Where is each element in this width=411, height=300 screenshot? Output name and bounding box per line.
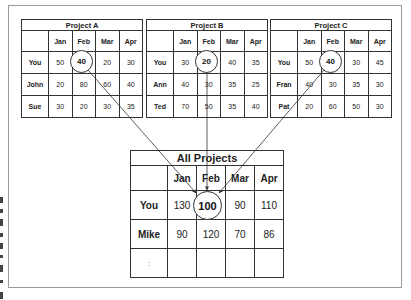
cell: 40: [119, 74, 143, 96]
table-row: John 20 80 60 40: [22, 74, 143, 96]
row-label: You: [22, 52, 49, 74]
cropped-margin-text: [0, 195, 4, 300]
cell: [226, 249, 255, 278]
col-header-feb: Feb: [197, 166, 226, 191]
row-label: Sue: [22, 96, 49, 118]
col-header-jan: Jan: [168, 166, 197, 191]
highlight-circle-a: 40: [70, 50, 93, 73]
cell: 45: [368, 52, 392, 74]
cell: 30: [321, 74, 345, 96]
cell: 30: [174, 52, 198, 74]
cell: 35: [244, 52, 268, 74]
cell: 86: [255, 220, 284, 249]
row-label: Ted: [147, 96, 174, 118]
table-row: :: [131, 249, 284, 278]
cell: 90: [226, 191, 255, 220]
col-header-jan: Jan: [174, 31, 198, 52]
row-label: Mike: [131, 220, 168, 249]
corner-cell: [22, 31, 49, 52]
cell: 60: [321, 96, 345, 118]
col-header-apr: Apr: [255, 166, 284, 191]
col-header-mar: Mar: [345, 31, 369, 52]
col-header-apr: Apr: [119, 31, 143, 52]
row-label: Fran: [271, 74, 298, 96]
cell: 25: [244, 74, 268, 96]
row-label: You: [271, 52, 298, 74]
col-header-feb: Feb: [72, 31, 96, 52]
cell: 40: [221, 52, 245, 74]
table-row: Mike 90 120 70 86: [131, 220, 284, 249]
col-header-feb: Feb: [321, 31, 345, 52]
col-header-mar: Mar: [221, 31, 245, 52]
highlight-circle-b: 20: [195, 50, 218, 73]
corner-cell: [147, 31, 174, 52]
table-title: Project A: [22, 20, 143, 31]
cell: 20: [298, 96, 322, 118]
table-row: Ted 70 50 35 40: [147, 96, 268, 118]
cell: 35: [345, 74, 369, 96]
cell: 20: [96, 52, 120, 74]
cell: 30: [368, 96, 392, 118]
cell: 50: [298, 52, 322, 74]
cell: 50: [197, 96, 221, 118]
table-row: Pat 20 60 50 30: [271, 96, 392, 118]
cell: 30: [96, 96, 120, 118]
col-header-feb: Feb: [197, 31, 221, 52]
corner-cell: [131, 166, 168, 191]
col-header-mar: Mar: [226, 166, 255, 191]
table-row: Sue 30 20 30 35: [22, 96, 143, 118]
cell: 120: [197, 220, 226, 249]
table-title: Project C: [271, 20, 392, 31]
cell: 35: [221, 74, 245, 96]
highlight-circle-total: 100: [193, 191, 222, 220]
cell: 35: [119, 96, 143, 118]
cell: 60: [96, 74, 120, 96]
cell: 70: [174, 96, 198, 118]
cell: [197, 249, 226, 278]
cell: [255, 249, 284, 278]
row-label: Pat: [271, 96, 298, 118]
col-header-apr: Apr: [244, 31, 268, 52]
col-header-mar: Mar: [96, 31, 120, 52]
table-row: Ann 40 30 35 25: [147, 74, 268, 96]
cell: 35: [221, 96, 245, 118]
cell: 30: [119, 52, 143, 74]
col-header-apr: Apr: [368, 31, 392, 52]
row-label: You: [131, 191, 168, 220]
row-label: John: [22, 74, 49, 96]
cell: 70: [226, 220, 255, 249]
col-header-jan: Jan: [49, 31, 73, 52]
cell: 50: [49, 52, 73, 74]
highlight-circle-c: 40: [319, 50, 342, 73]
row-label: You: [147, 52, 174, 74]
cell: 30: [345, 52, 369, 74]
corner-cell: [271, 31, 298, 52]
ellipsis-row-label: :: [131, 249, 168, 278]
cell: [168, 249, 197, 278]
cell: 30: [368, 74, 392, 96]
cell: 90: [168, 220, 197, 249]
cell: 30: [197, 74, 221, 96]
cell: 40: [244, 96, 268, 118]
col-header-jan: Jan: [298, 31, 322, 52]
row-label: Ann: [147, 74, 174, 96]
table-title: Project B: [147, 20, 268, 31]
cell: 40: [298, 74, 322, 96]
cell: 80: [72, 74, 96, 96]
table-title: All Projects: [131, 151, 284, 166]
table-row: Fran 40 30 35 30: [271, 74, 392, 96]
cell: 30: [49, 96, 73, 118]
cell: 40: [174, 74, 198, 96]
cell: 20: [49, 74, 73, 96]
cell: 50: [345, 96, 369, 118]
cell: 110: [255, 191, 284, 220]
cell: 20: [72, 96, 96, 118]
